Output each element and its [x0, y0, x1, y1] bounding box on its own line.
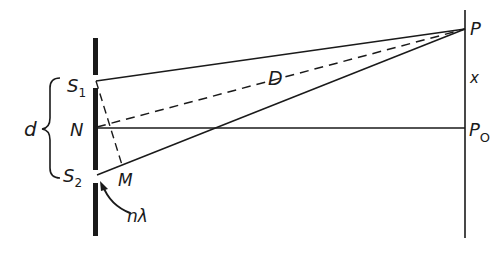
label-n: N	[70, 119, 83, 140]
barrier-bottom-segment	[93, 183, 98, 236]
diagram-canvas: S1 N S2 d M nλ D P x PO	[0, 0, 502, 254]
arrowhead-icon	[100, 181, 108, 191]
barrier	[93, 38, 98, 236]
label-p: P	[470, 18, 481, 39]
barrier-top-segment	[93, 38, 98, 75]
label-p0: PO	[469, 119, 490, 145]
ray-s2-to-p	[97, 29, 465, 175]
double-slit-diagram: S1 N S2 d M nλ D P x PO	[0, 0, 502, 254]
label-s2: S2	[63, 165, 82, 190]
separation-brace	[42, 78, 60, 178]
label-m: M	[118, 170, 133, 190]
perpendicular-s1-to-m	[96, 81, 122, 165]
barrier-middle-segment	[93, 88, 98, 170]
label-x: x	[469, 69, 479, 87]
label-s1: S1	[67, 75, 86, 100]
label-distance-d: D	[268, 67, 283, 89]
label-n-lambda: nλ	[127, 206, 148, 226]
path-difference-arrow	[103, 186, 130, 213]
label-d: d	[24, 117, 37, 141]
